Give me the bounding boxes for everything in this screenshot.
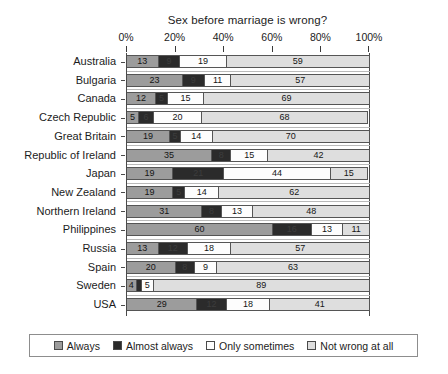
bar-segment: 9 <box>159 55 181 68</box>
legend-swatch <box>54 341 63 350</box>
bar-segment-value: 6 <box>143 113 148 122</box>
bar-row: 13121857 <box>127 242 370 255</box>
bar-segment-value: 11 <box>351 225 360 234</box>
y-axis-label: Russia <box>82 242 116 255</box>
bar-segment-value: 57 <box>295 76 305 85</box>
bar-segment: 8 <box>202 205 221 218</box>
y-tick-mark <box>121 211 125 212</box>
bar-segment-value: 5 <box>176 188 181 197</box>
legend-swatch <box>206 341 215 350</box>
y-tick-mark <box>121 62 125 63</box>
bar-row: 3181348 <box>127 205 370 218</box>
row-separator <box>127 89 370 90</box>
bar-segment-value: 12 <box>168 244 178 253</box>
bar-segment: 19 <box>127 167 173 180</box>
bar-segment-value: 57 <box>295 244 305 253</box>
bar-segment-value: 9 <box>191 76 196 85</box>
x-tick-mark <box>320 46 321 52</box>
bar-segment-value: 19 <box>198 57 208 66</box>
bar-segment: 9 <box>195 261 217 274</box>
y-tick-mark <box>121 99 125 100</box>
bar-segment: 62 <box>219 186 370 199</box>
row-separator <box>127 108 370 109</box>
y-tick-mark <box>121 118 125 119</box>
bar-segment: 14 <box>185 186 219 199</box>
y-axis-label: Great Britain <box>54 130 116 143</box>
y-tick-mark <box>121 136 125 137</box>
bar-segment: 19 <box>127 130 170 143</box>
bar-segment: 19 <box>127 186 173 199</box>
bar-segment-value: 13 <box>322 225 332 234</box>
bar-segment: 5 <box>170 130 181 143</box>
bar-segment-value: 19 <box>145 188 155 197</box>
row-separator <box>127 145 370 146</box>
bar-segment-value: 19 <box>145 169 155 178</box>
bar-segment: 69 <box>204 92 370 105</box>
bar-segment: 12 <box>127 92 156 105</box>
bar-segment-value: 11 <box>213 76 222 85</box>
legend-swatch <box>307 341 316 350</box>
bar-row: 19214415 <box>127 167 370 180</box>
bar-segment: 41 <box>270 298 370 311</box>
bar-segment-value: 44 <box>272 169 282 178</box>
bar-segment: 20 <box>154 111 203 124</box>
bar-segment-value: 62 <box>289 188 299 197</box>
bar-segment: 13 <box>127 242 159 255</box>
bar-segment-value: 8 <box>219 151 224 160</box>
legend-label: Not wrong at all <box>320 340 393 352</box>
chart-title: Sex before marriage is wrong? <box>126 14 369 26</box>
bar-segment-value: 12 <box>136 94 146 103</box>
x-tick-label: 100% <box>356 31 383 43</box>
bar-row: 1391959 <box>127 55 370 68</box>
bar-segment-value: 5 <box>130 113 135 122</box>
bar-segment: 11 <box>205 74 232 87</box>
x-tick-mark <box>223 46 224 52</box>
x-tick-mark <box>126 46 127 52</box>
legend-item: Always <box>54 340 100 352</box>
bar-segment-value: 13 <box>137 57 147 66</box>
y-tick-mark <box>121 286 125 287</box>
bar-segment-value: 20 <box>146 263 156 272</box>
plot-area: 1391959239115712515695620681951470358154… <box>126 53 370 316</box>
y-axis-label: USA <box>93 298 116 311</box>
bar-segment: 9 <box>183 74 205 87</box>
bar-row: 29121841 <box>127 298 370 311</box>
bar-segment-value: 15 <box>180 94 190 103</box>
bar-row: 3581542 <box>127 149 370 162</box>
y-axis-label: Australia <box>73 55 116 68</box>
bar-segment-value: 59 <box>293 57 303 66</box>
bar-segment: 57 <box>231 242 370 255</box>
bar-segment: 15 <box>231 149 267 162</box>
bar-segment: 21 <box>173 167 224 180</box>
bar-segment-value: 8 <box>209 207 214 216</box>
legend-label: Always <box>67 340 100 352</box>
bar-segment-value: 21 <box>193 169 203 178</box>
bar-segment: 59 <box>227 55 370 68</box>
bar-segment-value: 5 <box>145 281 150 290</box>
y-tick-mark <box>121 305 125 306</box>
bar-segment: 42 <box>268 149 370 162</box>
bar-segment: 8 <box>212 149 231 162</box>
y-tick-mark <box>121 80 125 81</box>
bar-segment-value: 63 <box>288 263 298 272</box>
y-tick-mark <box>121 230 125 231</box>
bar-segment-value: 15 <box>344 169 354 178</box>
bar-segment-value: 48 <box>306 207 316 216</box>
bar-segment: 8 <box>176 261 195 274</box>
x-tick-label: 60% <box>261 31 282 43</box>
legend-label: Only sometimes <box>219 340 294 352</box>
bar-segment: 63 <box>217 261 370 274</box>
bar-segment: 15 <box>331 167 367 180</box>
bar-segment: 5 <box>142 279 154 292</box>
x-axis: 0%20%40%60%80%100% <box>126 31 369 53</box>
y-axis-label: Northern Ireland <box>37 205 117 218</box>
bar-segment-value: 18 <box>243 300 253 309</box>
x-tick-label: 80% <box>310 31 331 43</box>
x-tick-mark <box>175 46 176 52</box>
bar-segment-value: 5 <box>172 132 177 141</box>
y-tick-mark <box>121 174 125 175</box>
bar-segment: 48 <box>253 205 370 218</box>
row-separator <box>127 258 370 259</box>
bar-segment-value: 16 <box>287 225 297 234</box>
bar-segment-value: 42 <box>313 151 323 160</box>
